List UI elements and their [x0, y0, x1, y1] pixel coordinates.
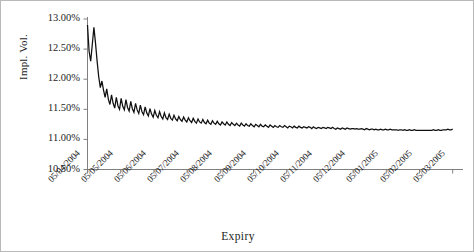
- x-axis-tick-label: 05/10/2004: [245, 148, 281, 184]
- x-axis-tick-label: 05/05/2004: [79, 148, 115, 184]
- x-axis-tick-label: 05/07/2004: [145, 148, 181, 184]
- x-axis-tick-label: 05/12/2004: [311, 148, 347, 184]
- x-axis-tick-label: 05/11/2004: [278, 148, 314, 184]
- x-axis-tick-label: 05/02/2005: [378, 148, 414, 184]
- x-axis-title: Expiry: [1, 230, 474, 242]
- x-axis-tick-label: 05/08/2004: [178, 148, 214, 184]
- x-axis-tick-label: 05/01/2005: [344, 148, 380, 184]
- x-axis-tick-label: 05/06/2004: [112, 148, 148, 184]
- x-axis-tick-labels: 05/04/200405/05/200405/06/200405/07/2004…: [1, 1, 474, 252]
- x-axis-tick-label: 05/03/2005: [411, 148, 447, 184]
- x-axis-tick-label: 05/09/2004: [212, 148, 248, 184]
- x-axis-tick-label: 05/04/2004: [46, 148, 82, 184]
- chart-figure: Impl. Vol. 13.00%12.50%12.00%11.50%11.00…: [0, 0, 474, 252]
